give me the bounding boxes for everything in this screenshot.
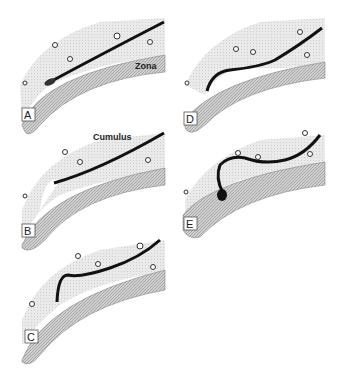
panel-c: C bbox=[22, 240, 165, 364]
panel-a: Zona A bbox=[20, 18, 165, 134]
panel-d: D bbox=[184, 18, 325, 132]
sperm-head bbox=[217, 189, 227, 201]
panel-label-d: D bbox=[186, 113, 194, 125]
panel-b: Cumulus B bbox=[22, 132, 165, 250]
zona-label: Zona bbox=[135, 61, 157, 71]
panel-e: E bbox=[183, 131, 325, 238]
panel-label-a: A bbox=[24, 109, 32, 121]
panel-label-b: B bbox=[24, 225, 31, 237]
figure-canvas: Zona A Cumulus B C D bbox=[0, 0, 340, 375]
panel-label-c: C bbox=[27, 331, 35, 343]
cumulus-label: Cumulus bbox=[93, 132, 132, 142]
panel-label-e: E bbox=[186, 218, 193, 230]
